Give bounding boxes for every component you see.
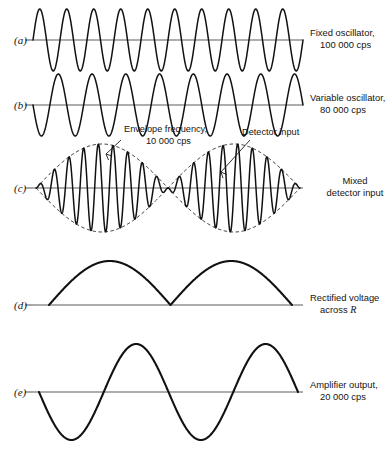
row-label-b: (b)	[14, 99, 27, 112]
side-label-e-line-2: 20 000 cps	[320, 391, 366, 402]
row-label-e: (e)	[14, 386, 27, 399]
side-label-e-line-1: Amplifier output,	[310, 379, 378, 390]
row-label-a: (a)	[14, 34, 27, 47]
side-label-d-prefix: across	[320, 304, 350, 315]
annotation-text-envelope-frequency-line-2: 10 000 cps	[146, 136, 191, 146]
heterodyne-waveform-figure: (a)Fixed oscillator,100 000 cps(b)Variab…	[0, 0, 389, 452]
row-label-c: (c)	[14, 182, 27, 195]
side-label-d-line-2: across R	[320, 304, 356, 315]
side-label-b-line-2: 80 000 cps	[320, 104, 366, 115]
annotation-text-detector-input-line-1: Detector input	[242, 127, 300, 137]
side-label-d-line-1: Rectified voltage	[310, 292, 379, 303]
resistor-symbol: R	[349, 304, 356, 315]
side-label-c-line-1: Mixed	[342, 175, 367, 186]
side-label-a-line-2: 100 000 cps	[320, 39, 371, 50]
row-label-d: (d)	[14, 299, 27, 312]
side-label-b-line-1: Variable oscillator,	[310, 92, 385, 103]
annotation-text-envelope-frequency-line-1: Envelope frequency,	[124, 124, 207, 134]
side-label-a-line-1: Fixed oscillator,	[310, 27, 375, 38]
side-label-c-line-2: detector input	[327, 187, 384, 198]
